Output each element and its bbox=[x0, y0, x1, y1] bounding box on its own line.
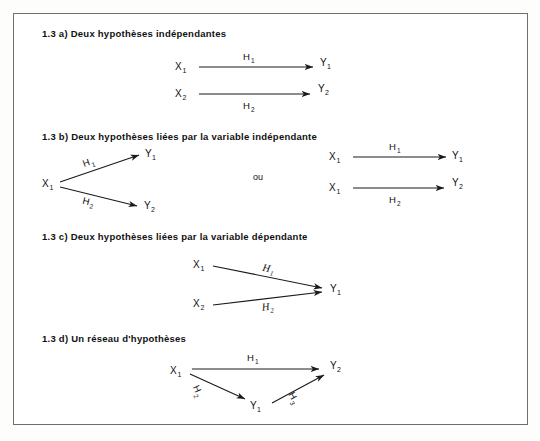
separator-ou: ou bbox=[253, 172, 263, 182]
figure-frame bbox=[13, 13, 528, 425]
section-heading-b: 1.3 b) Deux hypothèses liées par la vari… bbox=[42, 131, 317, 142]
figure-page: 1.3 a) Deux hypothèses indépendantes 1.3… bbox=[0, 0, 540, 441]
section-heading-a: 1.3 a) Deux hypothèses indépendantes bbox=[42, 28, 226, 39]
section-heading-c: 1.3 c) Deux hypothèses liées par la vari… bbox=[42, 231, 308, 242]
section-heading-d: 1.3 d) Un réseau d'hypothèses bbox=[42, 333, 186, 344]
